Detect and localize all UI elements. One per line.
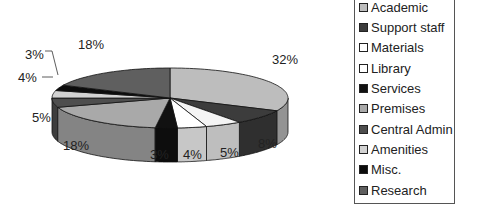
legend-label: Research <box>371 183 427 198</box>
legend-swatch-icon <box>359 23 368 32</box>
legend-label: Amenities <box>371 142 428 157</box>
legend-label: Academic <box>371 0 428 15</box>
legend-swatch-icon <box>359 165 368 174</box>
legend-item-premises: Premises <box>359 99 425 117</box>
legend-item-services: Services <box>359 79 421 97</box>
label-misc: 3% <box>25 47 44 62</box>
label-support-staff: 8% <box>258 136 277 151</box>
legend-item-research: Research <box>359 181 427 199</box>
legend-swatch-icon <box>359 145 368 154</box>
legend-label: Materials <box>371 40 424 55</box>
pie-chart-3d <box>0 0 350 209</box>
legend-item-materials: Materials <box>359 38 424 56</box>
legend-label: Misc. <box>371 162 401 177</box>
legend-item-central-admin: Central Admin <box>359 120 453 138</box>
legend-item-misc: Misc. <box>359 160 401 178</box>
legend-item-library: Library <box>359 59 411 77</box>
legend-label: Services <box>371 81 421 96</box>
leader-line <box>45 51 58 75</box>
legend-swatch-icon <box>359 43 368 52</box>
legend-label: Support staff <box>371 20 444 35</box>
legend-item-support-staff: Support staff <box>359 18 444 36</box>
legend-swatch-icon <box>359 64 368 73</box>
label-library: 4% <box>183 147 202 162</box>
chart-legend: Academic Support staff Materials Library… <box>354 0 455 204</box>
label-premises: 18% <box>63 138 89 153</box>
label-services: 3% <box>150 147 169 162</box>
legend-swatch-icon <box>359 125 368 134</box>
label-central-admin: 5% <box>32 110 51 125</box>
label-materials: 5% <box>220 145 239 160</box>
label-research: 18% <box>78 37 104 52</box>
legend-swatch-icon <box>359 186 368 195</box>
legend-label: Central Admin <box>371 122 453 137</box>
legend-label: Premises <box>371 101 425 116</box>
legend-swatch-icon <box>359 84 368 93</box>
legend-item-amenities: Amenities <box>359 140 428 158</box>
legend-label: Library <box>371 61 411 76</box>
legend-item-academic: Academic <box>359 0 428 16</box>
legend-swatch-icon <box>359 104 368 113</box>
label-amenities: 4% <box>18 70 37 85</box>
label-academic: 32% <box>272 52 298 67</box>
legend-swatch-icon <box>359 3 368 12</box>
